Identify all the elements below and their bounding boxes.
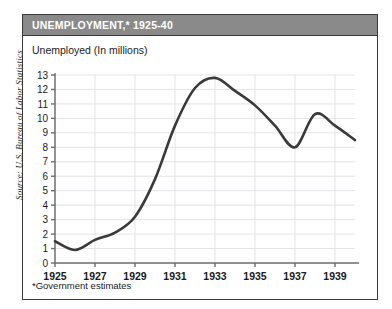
y-tick-label: 2 xyxy=(42,229,48,240)
source-credit: Source: U.S. Bureau of Labor Statistics xyxy=(0,0,22,309)
y-tick-label: 4 xyxy=(42,200,48,211)
chart-plot-svg: 012345678910111213 192519271929193119331… xyxy=(23,15,379,301)
y-tick-label: 3 xyxy=(42,214,48,225)
x-tick-label: 1933 xyxy=(203,270,227,282)
y-tick-label: 0 xyxy=(42,258,48,269)
y-tick-label: 13 xyxy=(37,70,49,81)
y-tick-label: 8 xyxy=(42,142,48,153)
y-tick-label: 5 xyxy=(42,185,48,196)
y-tick-label: 7 xyxy=(42,156,48,167)
plot-area: 012345678910111213 192519271929193119331… xyxy=(23,15,379,301)
y-tick-label: 12 xyxy=(37,84,49,95)
x-tick-label: 1937 xyxy=(283,270,307,282)
chart-footnote: *Government estimates xyxy=(32,280,131,291)
grid-lines xyxy=(55,75,355,263)
x-tick-label: 1931 xyxy=(163,270,187,282)
y-tick-label: 6 xyxy=(42,171,48,182)
y-tick-label: 10 xyxy=(37,113,49,124)
chart-screenshot: Source: U.S. Bureau of Labor Statistics … xyxy=(0,0,392,309)
chart-card: UNEMPLOYMENT,* 1925-40 Unemployed (In mi… xyxy=(22,14,378,300)
x-tick-label: 1939 xyxy=(323,270,347,282)
y-axis-group: 012345678910111213 xyxy=(37,70,55,269)
y-tick-label: 11 xyxy=(38,99,49,110)
y-tick-label: 1 xyxy=(42,243,48,254)
x-tick-label: 1935 xyxy=(243,270,267,282)
y-tick-label: 9 xyxy=(42,127,48,138)
